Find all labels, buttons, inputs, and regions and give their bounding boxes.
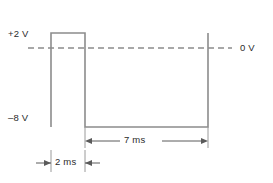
high-level-label: +2 V <box>8 28 29 39</box>
zero-level-label: 0 V <box>240 42 255 53</box>
arrowhead-7ms-right <box>201 138 208 144</box>
arrowhead-2ms-left <box>44 160 51 166</box>
pulse-width-label: 2 ms <box>55 156 76 167</box>
waveform-diagram <box>0 0 273 183</box>
arrowhead-7ms-left <box>85 138 92 144</box>
low-level-label: –8 V <box>8 112 28 123</box>
low-duration-label: 7 ms <box>124 134 145 145</box>
pulse-waveform-figure: +2 V –8 V 0 V 7 ms 2 ms <box>0 0 273 183</box>
pulse-trace <box>51 33 208 127</box>
arrowhead-2ms-right <box>85 160 92 166</box>
